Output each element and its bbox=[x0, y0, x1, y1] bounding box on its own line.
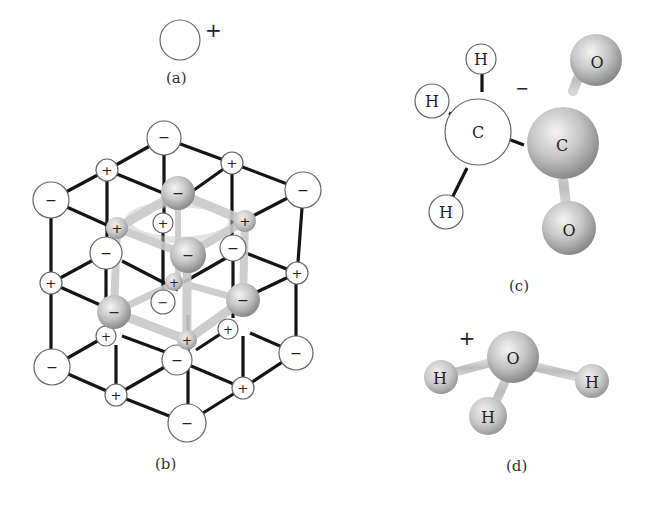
svg-text:−: − bbox=[290, 345, 302, 361]
oxygen-atom: O bbox=[487, 331, 539, 383]
positive-ion: + bbox=[232, 377, 254, 399]
charge-minus-sign: − bbox=[515, 79, 528, 98]
highlight-positive-ion: + bbox=[106, 217, 128, 239]
svg-text:+: + bbox=[111, 388, 122, 403]
negative-ion: − bbox=[279, 336, 313, 370]
svg-text:+: + bbox=[238, 381, 249, 396]
svg-text:+: + bbox=[240, 214, 251, 229]
panel-label-b: (b) bbox=[155, 455, 176, 473]
svg-text:−: − bbox=[100, 245, 112, 261]
positive-ion: + bbox=[218, 319, 238, 339]
svg-text:+: + bbox=[182, 334, 192, 348]
svg-text:+: + bbox=[46, 276, 57, 291]
highlight-positive-ion: + bbox=[234, 210, 256, 232]
highlight-positive-ion: + bbox=[165, 273, 183, 291]
hydrogen-atom: H bbox=[575, 364, 609, 398]
charge-plus-sign: + bbox=[459, 326, 476, 350]
svg-text:−: − bbox=[227, 240, 239, 256]
negative-ion: − bbox=[151, 290, 175, 314]
highlight-negative-ion: − bbox=[161, 176, 195, 210]
panel-label-c: (c) bbox=[509, 277, 529, 295]
svg-text:−: − bbox=[172, 185, 184, 201]
oxygen-atom: O bbox=[570, 34, 622, 86]
svg-text:H: H bbox=[425, 92, 439, 111]
positive-ion: + bbox=[40, 272, 62, 294]
svg-text:+: + bbox=[101, 330, 111, 344]
positive-ion: + bbox=[153, 213, 173, 233]
svg-text:−: − bbox=[158, 295, 169, 310]
highlight-negative-ion: − bbox=[170, 237, 206, 273]
negative-ion: − bbox=[34, 349, 70, 385]
positive-ion: + bbox=[96, 326, 116, 346]
svg-text:−: − bbox=[181, 415, 193, 431]
svg-text:−: − bbox=[45, 192, 57, 208]
highlight-negative-ion: − bbox=[97, 295, 131, 329]
highlight-negative-ion: − bbox=[226, 283, 260, 317]
svg-text:C: C bbox=[556, 136, 568, 155]
charge-plus-sign: + bbox=[205, 18, 222, 42]
svg-text:H: H bbox=[474, 50, 488, 69]
positive-ion-circle bbox=[160, 20, 200, 60]
hydrogen-atom: H bbox=[469, 397, 507, 435]
hydrogen-atom: H bbox=[429, 195, 463, 229]
svg-text:H: H bbox=[481, 408, 495, 427]
carbon-atom-methyl: C bbox=[445, 99, 511, 165]
negative-ion: − bbox=[220, 235, 246, 261]
svg-text:+: + bbox=[158, 216, 169, 231]
svg-text:−: − bbox=[297, 182, 309, 198]
svg-text:O: O bbox=[562, 221, 575, 240]
panel-a: + (a) bbox=[160, 18, 222, 87]
highlight-positive-ion: + bbox=[177, 330, 197, 350]
svg-text:−: − bbox=[171, 352, 183, 368]
svg-text:−: − bbox=[46, 359, 58, 375]
panel-label-d: (d) bbox=[506, 457, 527, 475]
svg-text:C: C bbox=[472, 123, 484, 142]
svg-text:−: − bbox=[158, 129, 170, 145]
svg-text:−: − bbox=[182, 247, 194, 263]
panel-label-a: (a) bbox=[166, 69, 187, 87]
negative-ion: − bbox=[33, 182, 69, 218]
panel-d: O H H H + (d) bbox=[424, 326, 609, 475]
positive-ion: + bbox=[105, 384, 127, 406]
svg-text:+: + bbox=[227, 156, 238, 171]
panel-b: − + + − − − + − + + − + + − − − + + − − … bbox=[33, 121, 321, 473]
positive-ion: + bbox=[221, 152, 243, 174]
hydrogen-atom: H bbox=[415, 84, 449, 118]
svg-text:H: H bbox=[585, 373, 599, 392]
negative-ion: − bbox=[285, 172, 321, 208]
svg-text:−: − bbox=[237, 292, 249, 308]
figure-canvas: + (a) bbox=[0, 0, 654, 505]
svg-text:H: H bbox=[439, 203, 453, 222]
oxygen-atom: O bbox=[542, 201, 596, 255]
svg-text:O: O bbox=[590, 53, 603, 72]
negative-ion: − bbox=[168, 404, 206, 442]
svg-text:+: + bbox=[112, 221, 123, 236]
svg-text:+: + bbox=[102, 163, 113, 178]
positive-ion: + bbox=[96, 159, 118, 181]
positive-ion: + bbox=[286, 262, 308, 284]
svg-text:+: + bbox=[169, 276, 179, 290]
svg-text:−: − bbox=[108, 304, 120, 320]
svg-text:+: + bbox=[223, 323, 233, 337]
hydrogen-atom: H bbox=[466, 44, 496, 74]
panel-c: H H H C O C O − (c) bbox=[415, 34, 622, 295]
svg-text:H: H bbox=[433, 369, 447, 388]
carbon-atom-carboxyl: C bbox=[527, 107, 599, 179]
svg-text:O: O bbox=[506, 349, 519, 368]
svg-text:+: + bbox=[292, 266, 303, 281]
hydrogen-atom: H bbox=[424, 360, 458, 394]
negative-ion: − bbox=[147, 121, 181, 155]
negative-ion: − bbox=[90, 237, 122, 269]
